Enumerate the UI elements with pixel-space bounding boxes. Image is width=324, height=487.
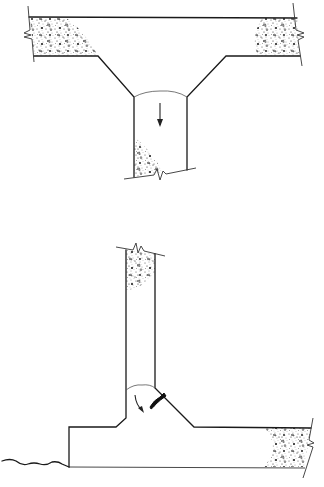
ground-line [2, 460, 69, 468]
wall-right-edge-and-haunch [155, 254, 311, 428]
slab-bottom-left-haunch [34, 56, 134, 177]
concrete-hatch-footing-right [263, 428, 311, 467]
curved-arrow-icon [135, 395, 144, 413]
footing-bottom-edge [69, 467, 305, 468]
crack-mark [150, 393, 166, 409]
concrete-hatch-top-right [255, 18, 300, 56]
wall-left-edge-and-haunch [69, 250, 126, 467]
cold-joint-surface-top [134, 91, 187, 97]
diagram-canvas [0, 0, 324, 487]
concrete-hatch-wall-top [126, 250, 155, 290]
cold-joint-surface-bottom [126, 385, 155, 390]
slab-top-edge [29, 17, 297, 18]
bottom-panel [2, 243, 314, 478]
arrow-down-icon [157, 103, 163, 127]
concrete-hatch-top-left [30, 18, 98, 56]
slab-bottom-right-haunch [187, 56, 300, 170]
top-panel [24, 3, 304, 180]
